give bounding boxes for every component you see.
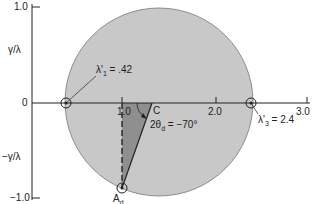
mohr-circle [65,8,253,196]
x-tick-label-2: 2.0 [208,107,222,117]
y-tick-label-0: 0 [22,98,28,108]
mohr-circle-diagram [0,0,316,204]
y-axis-upper-label: γ/λ [8,45,21,55]
y-tick-label-neg1: −1.0 [10,193,30,203]
y-tick-label-1: 1.0 [14,2,28,12]
lambda3-label: λ'3 = 2.4 [258,115,294,127]
y-axis-lower-label: −γ/λ [2,152,21,162]
center-label: C [153,106,160,116]
x-tick-label-1: 1.0 [117,107,131,117]
ad-label: Ad [113,194,124,204]
angle-label: 2θd = −70° [150,120,197,132]
lambda1-label: λ'1 = .42 [96,65,132,77]
x-tick-label-3: 3.0 [296,107,310,117]
